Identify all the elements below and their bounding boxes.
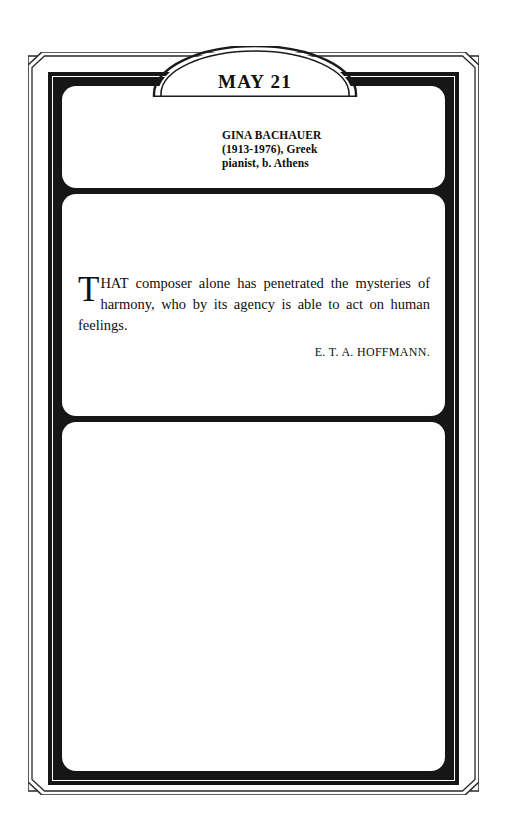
- quote-text: THAT composer alone has penetrated the m…: [78, 273, 430, 336]
- quote-panel: THAT composer alone has penetrated the m…: [62, 194, 445, 416]
- quote-attribution-text: E. T. A. HOFFMANN.: [315, 345, 430, 359]
- quote-attribution: E. T. A. HOFFMANN.: [78, 345, 430, 360]
- birth-entry: GINA BACHAUER (1913-1976), Greek pianist…: [222, 128, 321, 170]
- birth-entry-description: pianist, b. Athens: [222, 156, 321, 170]
- notes-panel[interactable]: [62, 422, 445, 771]
- content-well: GINA BACHAUER (1913-1976), Greek pianist…: [62, 86, 445, 771]
- quote-dropcap: T: [78, 273, 100, 304]
- quote-lead-words: HAT: [100, 275, 128, 291]
- birth-entry-name: GINA BACHAUER: [222, 128, 321, 142]
- quote-remainder: composer alone has penetrated the myster…: [78, 275, 430, 333]
- quote-block: THAT composer alone has penetrated the m…: [78, 273, 430, 360]
- birth-entry-panel: GINA BACHAUER (1913-1976), Greek pianist…: [62, 86, 445, 188]
- date-banner-label: MAY 21: [218, 71, 292, 92]
- date-banner: MAY 21: [152, 46, 358, 98]
- calendar-page: GINA BACHAUER (1913-1976), Greek pianist…: [0, 0, 507, 836]
- birth-entry-dates: (1913-1976), Greek: [222, 142, 321, 156]
